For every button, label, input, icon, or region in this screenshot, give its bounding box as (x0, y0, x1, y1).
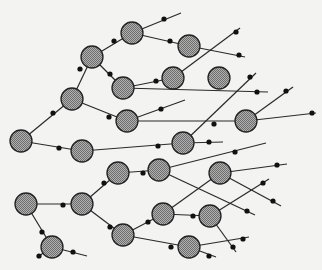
junction-dot (244, 208, 249, 213)
graph-node-n6 (112, 77, 134, 99)
junction-dot (206, 253, 211, 258)
graph-node-n9 (116, 110, 138, 132)
junction-dot (270, 198, 275, 203)
junction-dot (283, 88, 288, 93)
junction-dot (155, 143, 160, 148)
junction-dot (107, 224, 112, 229)
graph-node-n19 (112, 224, 134, 246)
graph-node-n11 (71, 140, 93, 162)
junction-dot (309, 110, 314, 115)
junction-dot (260, 180, 265, 185)
junction-dot (230, 244, 235, 249)
graph-node-n10 (235, 110, 257, 132)
junction-dot (190, 213, 195, 218)
junction-dot (70, 249, 75, 254)
junction-dot (111, 38, 116, 43)
graph-node-n1 (10, 130, 32, 152)
graph-node-n3 (81, 46, 103, 68)
junction-dot (36, 253, 41, 258)
junction-dot (106, 114, 111, 119)
junction-dot (101, 180, 106, 185)
graph-node-n5 (178, 35, 200, 57)
graph-node-n12 (172, 132, 194, 154)
graph-node-n21 (199, 205, 221, 227)
graph-node-n7 (162, 67, 184, 89)
junction-dot (274, 162, 279, 167)
junction-dot (107, 71, 112, 76)
junction-dot (158, 106, 163, 111)
network-diagram (0, 0, 322, 270)
graph-node-n20 (152, 203, 174, 225)
junction-dot (211, 121, 216, 126)
graph-node-n8 (208, 67, 230, 89)
graph-node-n18 (41, 236, 63, 258)
edge (123, 88, 268, 92)
graph-node-n2 (61, 88, 83, 110)
junction-dot (56, 145, 61, 150)
junction-dot (233, 29, 238, 34)
junction-dot (77, 66, 82, 71)
nodes-layer (10, 22, 257, 258)
graph-node-n16 (15, 193, 37, 215)
junction-dot (145, 219, 150, 224)
junction-dot (206, 139, 211, 144)
junction-dot (39, 229, 44, 234)
graph-node-n4 (121, 22, 143, 44)
edge (82, 143, 183, 151)
junction-dot (153, 78, 158, 83)
graph-node-n17 (71, 193, 93, 215)
junction-dot (161, 16, 166, 21)
junction-dot (240, 236, 245, 241)
junction-dot (236, 52, 241, 57)
graph-node-n15 (209, 162, 231, 184)
junction-dot (254, 89, 259, 94)
graph-node-n14 (148, 159, 170, 181)
junction-dot (247, 74, 252, 79)
junction-dot (140, 170, 145, 175)
graph-node-n13 (107, 162, 129, 184)
junction-dot (60, 202, 65, 207)
junction-dot (168, 244, 173, 249)
junction-dot (50, 110, 55, 115)
graph-node-n22 (178, 236, 200, 258)
junction-dot (167, 38, 172, 43)
junction-dot (232, 149, 237, 154)
